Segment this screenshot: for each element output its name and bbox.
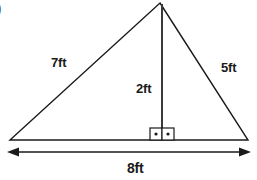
- label-left-side-length: 7ft: [51, 56, 66, 69]
- base-dimension-arrow-left: [7, 148, 19, 157]
- geometry-figure-page: ) 7ft 5ft 2ft 8ft: [0, 0, 257, 180]
- triangle-outline: [10, 3, 248, 140]
- triangle-diagram-svg: [0, 0, 257, 180]
- right-angle-dot-left: [154, 132, 157, 135]
- label-base-length: 8ft: [127, 161, 144, 175]
- base-dimension-arrow-right: [239, 148, 251, 157]
- label-right-side-length: 5ft: [221, 61, 236, 74]
- right-angle-dot-right: [166, 132, 169, 135]
- label-altitude-length: 2ft: [136, 82, 151, 95]
